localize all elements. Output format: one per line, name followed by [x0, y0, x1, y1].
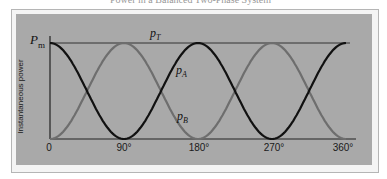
- x-tick-180: 180°: [189, 142, 210, 153]
- pm-label-sub: m: [38, 40, 45, 50]
- pt-label: pT: [150, 26, 160, 42]
- x-tick-0: 0: [46, 142, 52, 153]
- pb-label-sub: B: [183, 116, 188, 125]
- x-tick-270: 270°: [264, 142, 285, 153]
- pa-label-sub: A: [182, 70, 187, 79]
- pb-curve: [50, 43, 346, 139]
- pm-label-main: P: [30, 32, 38, 47]
- pt-label-sub: T: [156, 33, 160, 42]
- x-tick-90: 90°: [116, 142, 131, 153]
- pm-label: Pm: [30, 32, 45, 50]
- pa-curve: [50, 43, 346, 139]
- y-axis-label: Instantaneous power: [16, 57, 25, 137]
- pa-label: pA: [176, 63, 187, 79]
- pb-label: pB: [177, 109, 188, 125]
- x-tick-360: 360°: [333, 142, 354, 153]
